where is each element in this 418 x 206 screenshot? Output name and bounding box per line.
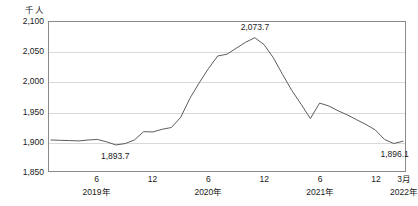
y-axis-tick-label: 1,850 [0,168,44,177]
x-axis-tick-label: 3月 [397,175,411,184]
y-axis-tick-label: 1,900 [0,138,44,147]
y-axis-tick-label: 2,050 [0,47,44,56]
x-axis-year-label: 2021年 [306,188,334,197]
data-point-label: 1,896.1 [380,150,408,159]
data-point-label: 2,073.7 [241,23,269,32]
line-chart: 千人 1,8501,9001,9502,0002,0502,100 62019年… [0,0,418,206]
x-axis-year-label: 2019年 [83,188,111,197]
y-axis-tick-label: 2,100 [0,17,44,26]
series-line [49,22,405,171]
data-point-label: 1,893.7 [101,152,129,161]
plot-area [48,21,406,172]
x-axis-tick-label: 12 [371,175,380,184]
series-polyline [51,38,403,145]
y-axis-tick-label: 1,950 [0,108,44,117]
x-axis-tick-label: 6 [94,175,99,184]
y-axis-unit-label: 千人 [25,3,44,15]
y-axis-tick-label: 2,000 [0,77,44,86]
x-axis-year-label: 2022年 [390,188,418,197]
x-axis-tick-label: 6 [206,175,211,184]
x-axis-tick-label: 12 [260,175,269,184]
x-axis-year-label: 2020年 [194,188,222,197]
x-axis-tick-label: 6 [318,175,323,184]
x-axis-tick-label: 12 [148,175,157,184]
